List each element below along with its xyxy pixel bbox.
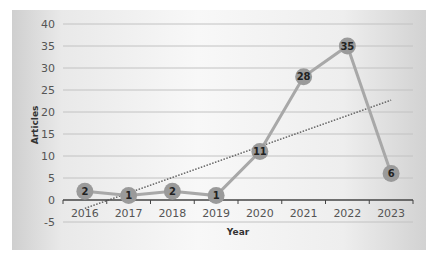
y-tick-label: 25 bbox=[41, 84, 55, 97]
data-label: 6 bbox=[388, 168, 395, 179]
data-label: 1 bbox=[213, 190, 220, 201]
x-tick-label: 2020 bbox=[246, 207, 274, 220]
y-tick-label: 40 bbox=[41, 18, 55, 31]
y-tick-label: 35 bbox=[41, 40, 55, 53]
data-label: 1 bbox=[125, 190, 132, 201]
y-tick-label: 0 bbox=[48, 194, 55, 207]
data-label: 2 bbox=[81, 186, 88, 197]
x-axis-title: Year bbox=[226, 227, 250, 237]
data-label: 11 bbox=[253, 146, 267, 157]
x-tick-label: 2019 bbox=[202, 207, 230, 220]
line-chart: 4035302520151050-52016201720182019202020… bbox=[0, 0, 436, 260]
x-tick-label: 2018 bbox=[158, 207, 186, 220]
x-tick-label: 2016 bbox=[71, 207, 99, 220]
x-tick-label: 2022 bbox=[333, 207, 361, 220]
data-label: 28 bbox=[297, 71, 311, 82]
y-tick-label: 20 bbox=[41, 106, 55, 119]
data-label: 2 bbox=[169, 186, 176, 197]
y-tick-label: 15 bbox=[41, 128, 55, 141]
y-tick-label: 30 bbox=[41, 62, 55, 75]
data-label: 35 bbox=[340, 41, 354, 52]
x-tick-label: 2023 bbox=[377, 207, 405, 220]
x-tick-label: 2021 bbox=[290, 207, 318, 220]
y-tick-label: -5 bbox=[44, 216, 55, 229]
x-tick-label: 2017 bbox=[115, 207, 143, 220]
y-axis-title: Articles bbox=[30, 106, 40, 145]
y-tick-label: 10 bbox=[41, 150, 55, 163]
y-tick-label: 5 bbox=[48, 172, 55, 185]
